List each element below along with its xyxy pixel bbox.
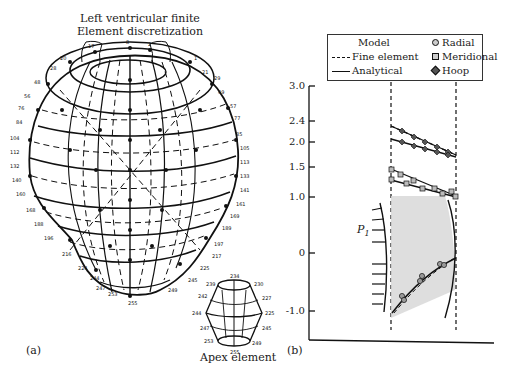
y-tick-label: 1.0	[275, 191, 305, 202]
svg-text:188: 188	[34, 221, 44, 227]
svg-text:245: 245	[262, 325, 272, 331]
svg-text:217: 217	[212, 253, 222, 259]
svg-text:168: 168	[26, 207, 36, 213]
svg-text:17: 17	[88, 43, 94, 49]
svg-text:132: 132	[10, 163, 20, 169]
svg-text:247: 247	[96, 285, 106, 291]
svg-text:161: 161	[236, 201, 246, 207]
svg-text:21: 21	[202, 69, 208, 75]
svg-text:253: 253	[204, 338, 214, 344]
svg-text:2: 2	[148, 41, 151, 47]
svg-text:253: 253	[108, 291, 118, 297]
svg-text:160: 160	[16, 191, 26, 197]
panel-b-label: (b)	[287, 344, 303, 357]
legend-fine-element: Fine element	[332, 51, 419, 62]
lv-mesh	[29, 41, 238, 296]
svg-text:8: 8	[126, 39, 129, 45]
y-tick-label: 1.5	[275, 161, 305, 172]
svg-text:48: 48	[34, 79, 40, 85]
svg-text:245: 245	[188, 277, 198, 283]
dashed-line-icon	[332, 57, 350, 58]
svg-text:197: 197	[214, 241, 224, 247]
circle-marker-icon	[432, 39, 439, 46]
svg-text:230: 230	[254, 281, 264, 287]
legend-fine-element-label: Fine element	[352, 51, 419, 62]
svg-text:112: 112	[10, 149, 20, 155]
svg-text:239: 239	[206, 281, 216, 287]
svg-text:255: 255	[128, 300, 138, 306]
svg-text:28: 28	[50, 65, 56, 71]
svg-text:20: 20	[60, 55, 66, 61]
svg-text:49: 49	[218, 89, 224, 95]
svg-text:224: 224	[78, 265, 88, 271]
y-tick-label: 0	[275, 247, 305, 258]
legend-analytical: Analytical	[332, 65, 402, 76]
svg-text:29: 29	[214, 75, 220, 81]
svg-text:113: 113	[240, 159, 250, 165]
y-tick-label: 2.4	[275, 115, 305, 126]
svg-text:77: 77	[234, 115, 240, 121]
svg-text:227: 227	[262, 295, 272, 301]
pressure-label: P1	[357, 223, 370, 238]
legend-meridional: Meridional	[432, 51, 497, 62]
svg-text:104: 104	[10, 135, 20, 141]
svg-text:140: 140	[12, 177, 22, 183]
svg-text:169: 169	[230, 213, 240, 219]
square-marker-icon	[432, 53, 439, 60]
y-tick-label: 3.0	[275, 80, 305, 91]
panel-a-label: (a)	[26, 344, 41, 357]
legend-hoop: Hoop	[432, 65, 469, 76]
svg-text:84: 84	[16, 119, 22, 125]
svg-text:1: 1	[194, 55, 197, 61]
svg-text:76: 76	[18, 105, 24, 111]
apex-element-caption: Apex element	[200, 351, 276, 364]
legend-analytical-label: Analytical	[352, 65, 402, 76]
svg-text:196: 196	[44, 235, 54, 241]
svg-text:249: 249	[252, 340, 262, 346]
legend-meridional-label: Meridional	[442, 51, 497, 62]
wall-region	[391, 196, 455, 318]
apex-element	[206, 280, 262, 346]
svg-text:247: 247	[200, 325, 210, 331]
svg-text:56: 56	[24, 93, 30, 99]
svg-text:244: 244	[90, 275, 100, 281]
svg-text:242: 242	[198, 293, 208, 299]
chart-legend: Model Fine element Analytical Radial Mer…	[327, 34, 483, 81]
solid-line-icon	[332, 71, 350, 72]
svg-text:105: 105	[240, 145, 250, 151]
svg-text:234: 234	[230, 273, 240, 279]
svg-text:216: 216	[62, 251, 72, 257]
y-tick-label: -1.0	[275, 305, 305, 316]
diamond-marker-icon	[431, 66, 441, 76]
y-tick-label: 2.0	[275, 136, 305, 147]
svg-text:85: 85	[236, 131, 242, 137]
legend-radial-label: Radial	[442, 37, 474, 48]
legend-model-header: Model	[358, 37, 390, 48]
svg-text:244: 244	[192, 310, 202, 316]
legend-hoop-label: Hoop	[442, 65, 469, 76]
svg-text:141: 141	[240, 187, 250, 193]
svg-text:189: 189	[222, 225, 232, 231]
svg-text:225: 225	[200, 265, 210, 271]
svg-text:57: 57	[230, 103, 236, 109]
legend-radial: Radial	[432, 37, 474, 48]
svg-text:249: 249	[168, 287, 178, 293]
pressure-subscript: 1	[364, 229, 369, 238]
svg-text:225: 225	[265, 310, 275, 316]
svg-text:133: 133	[240, 173, 250, 179]
